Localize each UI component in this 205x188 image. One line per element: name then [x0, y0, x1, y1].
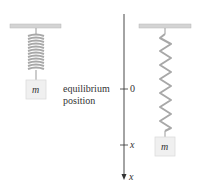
left-ceiling [10, 24, 61, 28]
tick-x-label: x [130, 139, 134, 150]
right-spring [160, 34, 171, 131]
axis-arrow-label: x [129, 171, 133, 182]
equilibrium-label-line2: position [63, 95, 95, 106]
equilibrium-label-line1: equilibrium [63, 83, 110, 94]
spring-diagram [0, 0, 205, 188]
left-spring [28, 35, 44, 70]
right-ceiling [139, 24, 191, 28]
left-mass-label: m [32, 84, 39, 95]
right-mass-label: m [161, 141, 168, 152]
axis-arrowhead [122, 174, 127, 180]
tick-zero-label: 0 [130, 83, 135, 94]
